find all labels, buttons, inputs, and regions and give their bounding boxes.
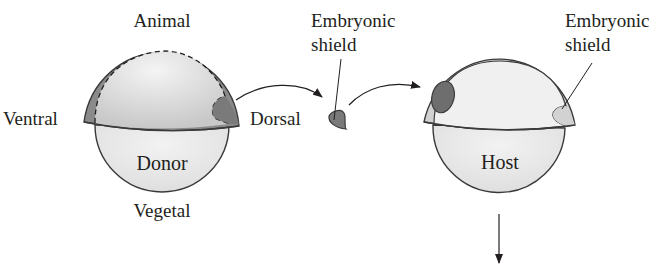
excised-shield-label-line1: Embryonic: [311, 10, 395, 31]
vegetal-pole-label: Vegetal: [134, 200, 191, 221]
arrow-excise: [236, 85, 322, 100]
host-embryo: Host: [424, 59, 575, 192]
donor-label: Donor: [136, 152, 187, 174]
donor-inner-cap: [95, 51, 229, 129]
excised-shield-tissue: [329, 110, 346, 129]
host-shield-leader: [562, 63, 592, 109]
animal-pole-label: Animal: [134, 10, 191, 31]
excised-shield-label-line2: shield: [311, 34, 357, 55]
host-label: Host: [481, 151, 519, 173]
arrow-transplant: [349, 84, 420, 105]
donor-embryo: Donor: [84, 51, 239, 192]
shield-transplant-diagram: Donor Animal Vegetal Ventral Dorsal Embr…: [0, 0, 669, 277]
host-shield-label-line1: Embryonic: [565, 10, 649, 31]
excised-shield: Embryonic shield: [311, 10, 395, 129]
ventral-side-label: Ventral: [3, 108, 58, 129]
dorsal-side-label: Dorsal: [250, 108, 301, 129]
host-shield-label-line2: shield: [565, 34, 611, 55]
